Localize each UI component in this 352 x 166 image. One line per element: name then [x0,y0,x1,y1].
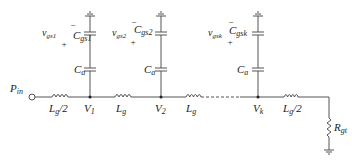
svg-text:−: − [131,17,137,27]
ca-label: Ca [74,63,85,77]
ca-label: Ca [237,63,248,77]
node-label-v2: V2 [155,102,166,116]
shunt-branch-2: Ca Cgs2 vgs2 − + V2 [112,12,167,116]
ground-icon [253,12,263,16]
node-dot [89,96,92,99]
ground-icon [156,12,166,16]
svg-text:Lg: Lg [115,102,126,116]
svg-text:−: − [70,20,76,30]
input-port: Pin [9,82,35,100]
inductor-lg-half-output: Lg/2 [282,95,302,117]
shunt-branch-1: Ca Cgs1 vgs1 − + V1 [42,12,96,116]
inductor-lg-2: Lg [185,95,201,117]
svg-text:Lg/2: Lg/2 [282,102,302,116]
node-dot [257,96,260,99]
svg-text:Lg: Lg [185,102,196,116]
ca-label: Ca [144,63,155,77]
ground-icon [85,12,95,16]
circuit-diagram: Pin Lg/2 Lg Lg Lg/2 [0,0,352,166]
inductor-lg-half-input: Lg/2 [48,95,68,117]
svg-text:+: + [130,37,136,47]
cgs-label: Cgs1 [73,29,91,43]
svg-text:−: − [228,17,234,27]
vgs-label: vgs1 [42,27,56,40]
svg-text:Lg/2: Lg/2 [48,102,68,116]
shunt-branch-k: Ca Cgsk vgsk − + Vk [208,12,264,116]
node-dot [160,96,163,99]
vgs-label: vgs2 [112,27,127,40]
node-label-vk: Vk [253,102,264,116]
svg-text:+: + [227,37,233,47]
vgs-label: vgsk [208,27,223,40]
rgt-label: Rgt [333,121,348,135]
inductor-lg-1: Lg [115,95,131,117]
termination-resistor: Rgt [324,118,348,154]
ground-icon [324,150,334,154]
svg-text:+: + [61,39,67,49]
node-label-v1: V1 [84,102,95,116]
svg-text:Pin: Pin [9,82,23,96]
